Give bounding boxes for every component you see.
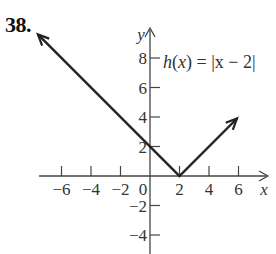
x-tick-label: 2: [175, 180, 184, 199]
y-tick-label: 6: [139, 79, 148, 98]
y-tick-label: −2: [129, 197, 147, 216]
function-label: h(x) = |x − 2|: [163, 52, 256, 73]
x-tick-label: 6: [234, 180, 243, 199]
y-tick-label: 4: [139, 108, 148, 127]
x-axis-label: x: [259, 180, 268, 199]
y-tick-label: −4: [129, 226, 148, 245]
x-tick-label: −2: [111, 180, 129, 199]
plot-area: −6−4−224608642−2−4xyh(x) = |x − 2|: [0, 0, 276, 254]
x-tick-label: −6: [52, 180, 70, 199]
problem-number: 38.: [5, 12, 31, 38]
x-tick-label: 4: [205, 180, 214, 199]
y-tick-label: 8: [139, 49, 148, 68]
x-tick-label: −4: [82, 180, 101, 199]
graph-figure: 38. −6−4−224608642−2−4xyh(x) = |x − 2|: [0, 0, 276, 254]
y-axis-label: y: [135, 25, 145, 44]
